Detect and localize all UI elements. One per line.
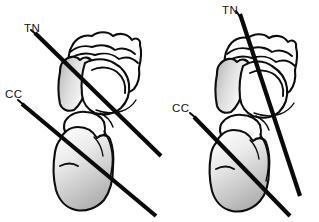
right-panel-group: TN CC	[172, 4, 300, 216]
left-cc-label: CC	[5, 88, 22, 100]
left-panel-group: TN CC	[5, 22, 161, 216]
figure-canvas: TN CC	[0, 0, 319, 222]
left-tn-label: TN	[24, 22, 40, 34]
right-tn-label: TN	[222, 4, 238, 16]
anatomical-figure: TN CC	[0, 0, 319, 222]
right-cc-label: CC	[172, 102, 189, 114]
